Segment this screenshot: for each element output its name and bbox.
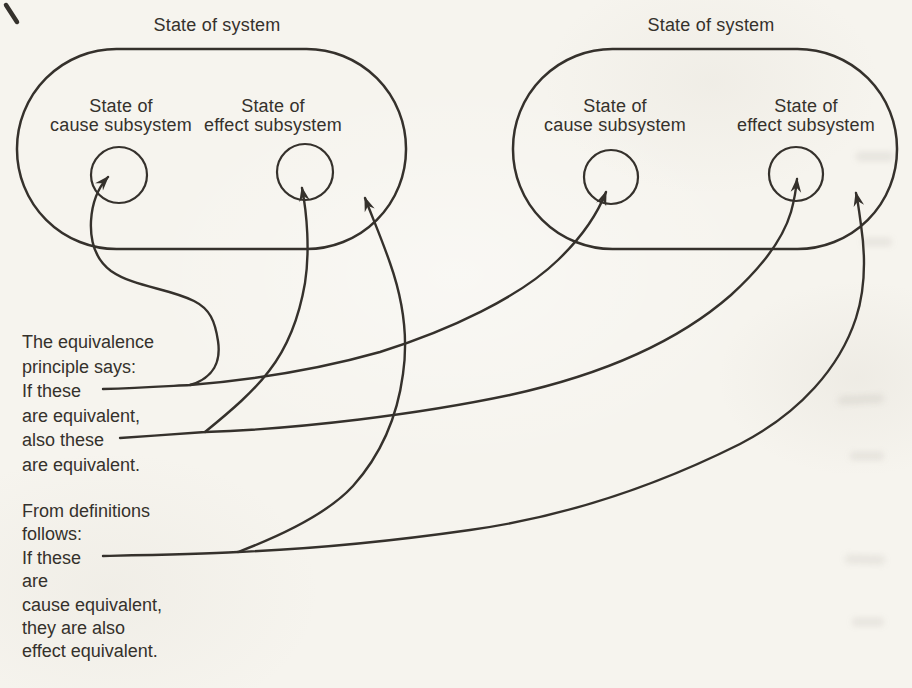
definitions-note-line: are [22,570,162,593]
right-effect-line1: State of [737,97,875,116]
definitions-note: From definitions follows: If these are c… [22,500,162,664]
definitions-note-line: From definitions [22,500,162,523]
left-system-title: State of system [153,15,280,36]
left-cause-subsystem-label: State of cause subsystem [50,97,192,134]
equivalence-note-line: principle says: [22,355,154,380]
left-effect-line1: State of [204,97,342,116]
definitions-note-line: cause equivalent, [22,594,162,617]
definitions-note-line: If these [22,547,162,570]
equivalence-note-line: are equivalent, [22,404,154,429]
right-cause-line2: cause subsystem [544,116,686,135]
equivalence-note: The equivalence principle says: If these… [22,330,154,478]
equivalence-note-line: also these [22,428,154,453]
left-effect-state-circle [277,144,333,200]
left-system-boundary [17,49,406,249]
definitions-note-line: effect equivalent. [22,640,162,663]
right-effect-line2: effect subsystem [737,116,875,135]
arrow-also-to-right-effect [205,179,797,432]
right-cause-line1: State of [544,97,686,116]
definitions-note-line: they are also [22,617,162,640]
right-cause-state-circle [584,150,638,204]
scan-artifact-mark [6,5,17,22]
left-cause-line2: cause subsystem [50,116,192,135]
right-cause-subsystem-label: State of cause subsystem [544,97,686,134]
right-effect-subsystem-label: State of effect subsystem [737,97,875,134]
right-system-title: State of system [647,15,774,36]
right-system-boundary [513,49,897,249]
definitions-note-line: follows: [22,523,162,546]
equivalence-note-line: are equivalent. [22,453,154,478]
left-effect-line2: effect subsystem [204,116,342,135]
left-effect-subsystem-label: State of effect subsystem [204,97,342,134]
left-cause-state-circle [91,147,147,203]
left-cause-line1: State of [50,97,192,116]
equivalence-note-line: The equivalence [22,330,154,355]
equivalence-note-line: If these [22,379,154,404]
